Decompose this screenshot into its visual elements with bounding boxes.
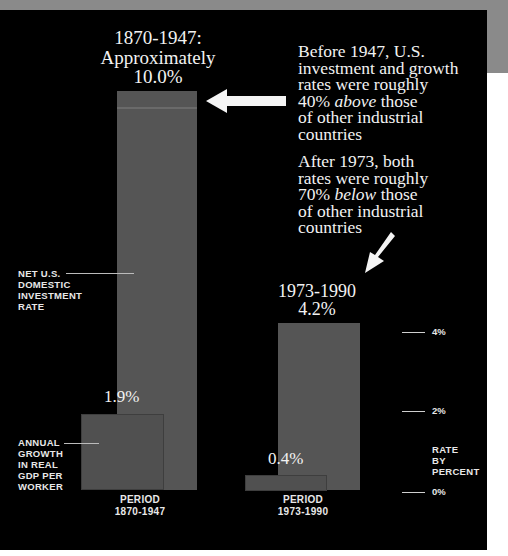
tick-4 <box>402 332 425 333</box>
investment-leader-line <box>66 273 134 274</box>
left-title-line: Approximately <box>88 48 228 68</box>
label-line: GROWTH <box>18 448 63 459</box>
growth-value-right: 0.4% <box>268 449 303 469</box>
right-title-value: 4.2% <box>262 300 372 318</box>
period-label-right: PERIOD 1973-1990 <box>263 494 343 518</box>
growth-bar-1870-1947 <box>81 414 164 490</box>
arrow-left-icon <box>204 88 288 116</box>
label-line: IN REAL <box>18 459 63 470</box>
tick-label-0: 0% <box>432 486 446 497</box>
growth-bar-1973-1990 <box>245 475 327 491</box>
axis-title-line: RATE <box>432 444 480 455</box>
arrow-down-left-icon <box>362 230 396 276</box>
growth-value-left: 1.9% <box>104 387 139 407</box>
tick-0 <box>402 492 425 493</box>
axis-title-line: BY <box>432 455 480 466</box>
label-line: GDP PER <box>18 470 63 481</box>
label-line: DOMESTIC <box>18 279 82 290</box>
left-title-value: 10.0% <box>88 67 228 87</box>
axis-title: RATE BY PERCENT <box>432 444 480 477</box>
label-line: RATE <box>18 301 82 312</box>
period-label-left: PERIOD 1870-1947 <box>100 494 180 518</box>
axis-title-line: PERCENT <box>432 466 480 477</box>
bar-highlight <box>117 107 197 109</box>
tick-label-2: 2% <box>432 405 446 416</box>
after-1973-note: After 1973, both rates were roughly 70% … <box>298 153 488 236</box>
tick-2 <box>402 411 425 412</box>
period-line: PERIOD <box>100 494 180 506</box>
tick-label-4: 4% <box>432 326 446 337</box>
before-1947-note: Before 1947, U.S. investment and growth … <box>298 43 488 143</box>
investment-rate-label: NET U.S. DOMESTIC INVESTMENT RATE <box>18 268 82 312</box>
period-line: PERIOD <box>263 494 343 506</box>
growth-leader-line <box>64 443 99 444</box>
growth-rate-label: ANNUAL GROWTH IN REAL GDP PER WORKER <box>18 437 63 492</box>
period-line: 1870-1947 <box>100 506 180 518</box>
period-line: 1973-1990 <box>263 506 343 518</box>
note-line: countries <box>298 126 488 143</box>
right-title-line: 1973-1990 <box>262 282 372 300</box>
left-title-line: 1870-1947: <box>88 28 228 48</box>
label-line: ANNUAL <box>18 437 63 448</box>
label-line: WORKER <box>18 481 63 492</box>
left-period-title: 1870-1947: Approximately 10.0% <box>88 28 228 87</box>
label-line: INVESTMENT <box>18 290 82 301</box>
right-period-title: 1973-1990 4.2% <box>262 282 372 318</box>
